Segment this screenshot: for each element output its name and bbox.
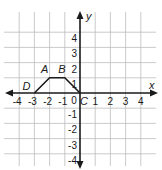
point-label-a: A <box>40 63 48 75</box>
y-tick-label: 3 <box>71 48 77 59</box>
y-axis-label: y <box>85 10 93 22</box>
point-label-d: D <box>22 80 30 92</box>
y-tick-label: -2 <box>68 124 77 135</box>
x-axis-label: x <box>148 79 155 91</box>
y-tick-label: -4 <box>68 155 77 166</box>
point-label-c: C <box>80 95 88 107</box>
x-tick-label: -2 <box>43 96 52 107</box>
x-tick-label: 1 <box>92 96 98 107</box>
x-tick-label: 3 <box>123 96 129 107</box>
x-tick-label: -1 <box>58 96 67 107</box>
point-label-b: B <box>58 63 65 75</box>
y-tick-label: 2 <box>71 64 77 75</box>
y-tick-label: 4 <box>71 33 77 44</box>
x-tick-labels: -4-3-2-11234 <box>13 96 144 107</box>
coordinate-plane: x y 0 -4-3-2-11234 4321-1-2-3-4 DABC <box>0 0 162 170</box>
y-tick-label: -3 <box>68 140 77 151</box>
origin-label: 0 <box>71 95 77 106</box>
x-tick-label: -3 <box>28 96 37 107</box>
x-tick-label: 4 <box>138 96 144 107</box>
y-tick-label: -1 <box>68 109 77 120</box>
x-tick-label: 2 <box>108 96 114 107</box>
x-tick-label: -4 <box>13 96 22 107</box>
y-axis-up-arrow-icon <box>77 11 84 19</box>
y-axis-down-arrow-icon <box>77 161 84 169</box>
